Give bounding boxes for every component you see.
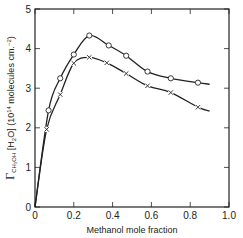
x-tick-label: 0.4 [106,210,120,221]
cross-marker [124,71,129,76]
circle-marker [58,76,63,81]
data-curves [35,35,210,207]
x-axis-label: Methanol mole fraction [86,225,177,235]
chart: 00.20.40.60.81.0 012345 Methanol mole fr… [0,0,243,238]
circle-marker [106,43,111,48]
circle-marker [124,53,129,58]
x-tick-labels: 00.20.40.60.81.0 [32,210,236,221]
circle-marker [168,76,173,81]
circles-curve [35,35,210,207]
cross-marker [71,61,76,66]
circle-marker [71,52,76,57]
y-tick-label: 1 [25,162,31,173]
y-tick-label: 2 [25,122,31,133]
cross-marker [168,90,173,95]
x-tick-label: 1.0 [222,210,236,221]
y-tick-label: 4 [25,43,31,54]
x-tick-label: 0.8 [183,210,197,221]
cross-marker [58,92,63,97]
y-tick-label: 3 [25,83,31,94]
cross-marker [195,105,200,110]
y-axis-label: ΓCH₃OH [H2O] (1014 molecules cm.−2) [3,36,17,179]
y-tick-labels: 012345 [25,4,31,213]
x-tick-label: 0.6 [144,210,158,221]
cross-marker [44,127,49,132]
circle-marker [195,80,200,85]
circle-marker [46,108,51,113]
y-tick-label: 0 [25,202,31,213]
cross-marker [104,60,109,65]
circle-marker [87,33,92,38]
cross-marker [87,55,92,60]
circle-marker [145,69,150,74]
data-markers [44,33,201,132]
cross-marker [145,83,150,88]
y-tick-label: 5 [25,4,31,15]
x-tick-label: 0.2 [67,210,81,221]
x-tick-label: 0 [32,210,38,221]
